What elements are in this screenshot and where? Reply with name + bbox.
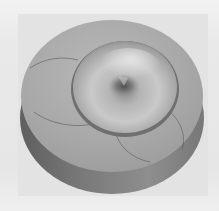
dome-dimple [108,74,140,98]
disk-render [0,0,219,211]
